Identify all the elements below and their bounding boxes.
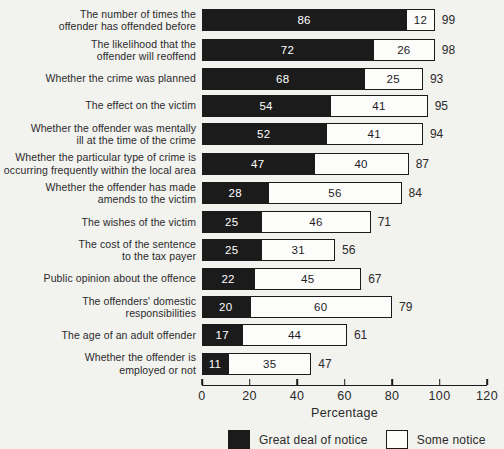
bar-segment-some-notice: 12 <box>406 9 435 31</box>
x-axis-tick <box>486 379 488 385</box>
category-label-line: The age of an adult offender <box>0 329 196 341</box>
x-axis-tick-label: 0 <box>198 389 205 403</box>
category-label-line: occurring frequently within the local ar… <box>0 164 196 176</box>
bar-segment-great-deal: 25 <box>202 239 261 261</box>
category-label-line: to the tax payer <box>0 250 196 262</box>
stacked-bar: 5441 <box>202 95 428 117</box>
bar-segment-great-deal: 20 <box>202 296 250 318</box>
bar-segment-some-notice: 46 <box>261 211 370 233</box>
bar-segment-great-deal: 54 <box>202 95 330 117</box>
x-axis-tick <box>296 379 298 385</box>
bar-total-label: 87 <box>416 157 429 171</box>
category-label-line: Whether the offender has made <box>0 181 196 193</box>
bar-segment-great-deal: 52 <box>202 123 326 145</box>
category-label-line: Whether the crime was planned <box>0 72 196 84</box>
bar-cell: 722698 <box>202 39 502 61</box>
bar-segment-some-notice: 45 <box>254 268 361 290</box>
stacked-bar: 1135 <box>202 353 311 375</box>
bar-total-label: 56 <box>342 243 355 257</box>
bar-total-label: 67 <box>368 272 381 286</box>
stacked-bar: 7226 <box>202 39 435 61</box>
bar-segment-great-deal: 86 <box>202 9 406 31</box>
x-axis-tick-label: 40 <box>290 389 305 403</box>
bar-total-label: 71 <box>378 215 391 229</box>
category-label-line: The offenders' domestic <box>0 295 196 307</box>
bar-total-label: 95 <box>435 99 448 113</box>
bar-cell: 113547 <box>202 353 502 375</box>
stacked-bar: 6825 <box>202 68 423 90</box>
category-label-line: Whether the offender is <box>0 351 196 363</box>
x-axis-tick-label: 60 <box>337 389 352 403</box>
chart-rows: The number of times theoffender has offe… <box>0 8 504 376</box>
legend-swatch-great-deal <box>228 430 250 449</box>
bar-segment-some-notice: 44 <box>242 324 347 346</box>
bar-total-label: 99 <box>442 13 455 27</box>
bar-segment-great-deal: 72 <box>202 39 373 61</box>
category-label: Whether the crime was planned <box>0 72 200 84</box>
category-label-line: offender has offended before <box>0 20 196 32</box>
bar-total-label: 79 <box>399 300 412 314</box>
bar-segment-some-notice: 35 <box>228 353 311 375</box>
x-axis-tick-label: 100 <box>428 389 450 403</box>
category-label-line: offender will reoffend <box>0 50 196 62</box>
category-label-line: responsibilities <box>0 307 196 319</box>
chart-row: Whether the offender isemployed or not11… <box>0 351 504 376</box>
category-label: The offenders' domesticresponsibilities <box>0 295 200 320</box>
bar-total-label: 61 <box>354 328 367 342</box>
bar-area: 722698 <box>202 39 487 61</box>
legend-item-some-notice: Some notice <box>386 430 486 449</box>
category-label-line: The number of times the <box>0 8 196 20</box>
chart-row: Whether the offender has madeamends to t… <box>0 181 504 206</box>
stacked-bar: 2856 <box>202 182 402 204</box>
x-axis-tick <box>249 379 251 385</box>
chart-row: The age of an adult offender174461 <box>0 324 504 346</box>
bar-area: 474087 <box>202 153 487 175</box>
bar-cell: 253156 <box>202 239 502 261</box>
stacked-bar: 4740 <box>202 153 409 175</box>
bar-cell: 174461 <box>202 324 502 346</box>
chart-row: The cost of the sentenceto the tax payer… <box>0 238 504 263</box>
stacked-bar: 2060 <box>202 296 392 318</box>
legend-label-great-deal: Great deal of notice <box>259 433 368 447</box>
x-axis-tick-label: 80 <box>385 389 400 403</box>
category-label: Whether the offender has madeamends to t… <box>0 181 200 206</box>
bar-segment-great-deal: 28 <box>202 182 268 204</box>
bar-segment-great-deal: 22 <box>202 268 254 290</box>
x-axis-tick-labels: 020406080100120 <box>202 389 487 404</box>
category-label: The effect on the victim <box>0 99 200 111</box>
category-label: The number of times theoffender has offe… <box>0 8 200 33</box>
bar-cell: 474087 <box>202 153 502 175</box>
bar-segment-some-notice: 25 <box>364 68 423 90</box>
x-axis-tick-label: 20 <box>242 389 257 403</box>
bar-segment-great-deal: 68 <box>202 68 364 90</box>
bar-total-label: 93 <box>430 72 443 86</box>
chart-row: The wishes of the victim254671 <box>0 211 504 233</box>
stacked-bar: 5241 <box>202 123 423 145</box>
category-label: Whether the offender isemployed or not <box>0 351 200 376</box>
bar-total-label: 94 <box>430 127 443 141</box>
bar-area: 206079 <box>202 296 487 318</box>
bar-segment-great-deal: 17 <box>202 324 242 346</box>
stacked-bar: 1744 <box>202 324 347 346</box>
stacked-bar: 2546 <box>202 211 371 233</box>
bar-segment-great-deal: 25 <box>202 211 261 233</box>
x-axis <box>202 378 487 386</box>
legend-item-great-deal: Great deal of notice <box>228 430 368 449</box>
category-label-line: The likelihood that the <box>0 38 196 50</box>
category-label-line: employed or not <box>0 364 196 376</box>
legend-swatch-some-notice <box>386 430 408 449</box>
bar-cell: 861299 <box>202 9 502 31</box>
x-axis-tick <box>344 379 346 385</box>
bar-area: 861299 <box>202 9 487 31</box>
bar-segment-some-notice: 41 <box>326 123 423 145</box>
bar-cell: 544195 <box>202 95 502 117</box>
x-axis-tick <box>439 379 441 385</box>
bar-area: 174461 <box>202 324 487 346</box>
bar-cell: 285684 <box>202 182 502 204</box>
category-label: The cost of the sentenceto the tax payer <box>0 238 200 263</box>
category-label-line: Public opinion about the offence <box>0 272 196 284</box>
bar-cell: 206079 <box>202 296 502 318</box>
category-label-line: amends to the victim <box>0 193 196 205</box>
category-label-line: The cost of the sentence <box>0 238 196 250</box>
category-label: The wishes of the victim <box>0 216 200 228</box>
